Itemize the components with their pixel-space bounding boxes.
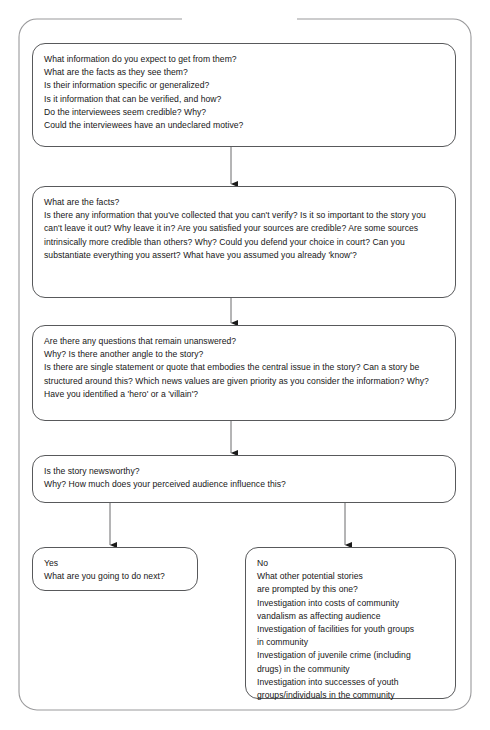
node-line: Investigation of juvenile crime (includi… [257,649,444,662]
node-facts: What are the facts? Is there any informa… [32,186,456,298]
node-line: Could the interviewees have an undeclare… [44,119,444,132]
node-line: What information do you expect to get fr… [44,53,444,66]
node-line: Are there any questions that remain unan… [44,335,444,348]
node-line: in community [257,636,444,649]
node-line: Is the story newsworthy? [44,465,444,478]
node-line: Is it information that can be verified, … [44,93,444,106]
node-interviewees: What information do you expect to get fr… [32,43,456,147]
node-line: What are the facts as they see them? [44,66,444,79]
node-line: drugs) in the community [257,663,444,676]
node-line: Do the interviewees seem credible? Why? [44,106,444,119]
node-line: What are the facts? [44,196,444,209]
node-line: No [257,557,444,570]
node-line: Yes [44,557,186,570]
flowchart-page: What information do you expect to get fr… [0,0,490,730]
node-line: Investigation of facilities for youth gr… [257,623,444,636]
node-line: Investigation into successes of youth [257,676,444,689]
node-line: What are you going to do next? [44,570,186,583]
node-line: Is their information specific or general… [44,79,444,92]
node-line: groups/individuals in the community [257,689,444,702]
node-paragraph: Is there are single statement or quote t… [44,361,444,401]
node-line: Why? Is there another angle to the story… [44,348,444,361]
node-line: are prompted by this one? [257,583,444,596]
node-questions: Are there any questions that remain unan… [32,325,456,421]
node-line: Why? How much does your perceived audien… [44,478,444,491]
node-line: Investigation into costs of community [257,597,444,610]
node-paragraph: Is there any information that you've col… [44,209,444,262]
node-no-branch: No What other potential stories are prom… [245,547,456,699]
node-newsworthy: Is the story newsworthy? Why? How much d… [32,455,456,503]
node-line: What other potential stories [257,570,444,583]
node-line: vandalism as affecting audience [257,610,444,623]
node-yes-branch: Yes What are you going to do next? [32,547,198,591]
